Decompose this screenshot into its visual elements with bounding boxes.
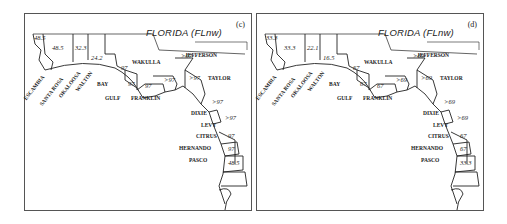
label-jefferson: JEFFERSON: [417, 52, 449, 58]
value-franklin: 97: [145, 82, 152, 89]
value-bay: 97: [121, 64, 128, 71]
label-dixie: DIXIE: [191, 110, 207, 116]
label-taylor: TAYLOR: [440, 75, 463, 81]
label-taylor: TAYLOR: [208, 75, 231, 81]
label-citrus: CITRUS: [196, 133, 217, 139]
label-levy: LEVY: [433, 122, 448, 128]
value-escambia: 33.3: [266, 34, 277, 41]
value-bay: 67: [353, 64, 360, 71]
value-taylor: >97: [189, 74, 200, 81]
label-citrus: CITRUS: [428, 133, 449, 139]
label-pasco: PASCO: [189, 157, 207, 163]
value-wakulla: >69: [396, 76, 407, 83]
map-panel-d: (d) FLORIDA (FLnw) 33.3 33.3 22.1 16.5 6…: [256, 13, 484, 211]
value-pasco: 33.3: [460, 159, 471, 166]
value-dixie: >69: [444, 98, 455, 105]
label-pasco: PASCO: [421, 157, 439, 163]
label-levy: LEVY: [201, 122, 216, 128]
value-escambia: 48.5: [34, 34, 45, 41]
label-bay: BAY: [97, 81, 108, 87]
label-hernando: HERNANDO: [411, 145, 443, 151]
label-gulf: GULF: [105, 95, 120, 101]
value-gulf: 97: [128, 80, 135, 87]
value-citrus: 97: [228, 132, 235, 139]
value-wakulla: >97: [164, 76, 175, 83]
label-wakulla: WAKULLA: [364, 59, 392, 65]
value-taylor: >69: [421, 74, 432, 81]
value-santa-rosa: 48.5: [52, 44, 63, 51]
label-bay: BAY: [329, 81, 340, 87]
value-levy: >97: [225, 114, 236, 121]
value-pasco: 48.5: [228, 159, 239, 166]
panel-tag: (c): [236, 20, 245, 29]
map-panel-c: (c) FLORIDA (FLnw) 48.5 48.5 32.3 24.2 9…: [24, 13, 252, 211]
map-title: FLORIDA (FLnw): [146, 27, 222, 38]
map-title: FLORIDA (FLnw): [378, 27, 454, 38]
panel-tag: (d): [468, 20, 477, 29]
value-okaloosa: 32.3: [75, 44, 86, 51]
label-hernando: HERNANDO: [179, 145, 211, 151]
label-jefferson: JEFFERSON: [185, 52, 217, 58]
label-franklin: FRANKLIN: [131, 95, 160, 101]
value-hernando: 97: [228, 145, 235, 152]
label-franklin: FRANKLIN: [363, 95, 392, 101]
value-franklin: 67: [377, 82, 384, 89]
value-walton: 24.2: [91, 54, 102, 61]
label-wakulla: WAKULLA: [132, 59, 160, 65]
value-okaloosa: 22.1: [307, 44, 318, 51]
value-walton: 16.5: [323, 54, 334, 61]
value-hernando: 67: [460, 145, 467, 152]
label-gulf: GULF: [337, 95, 352, 101]
value-levy: >69: [457, 114, 468, 121]
value-santa-rosa: 33.3: [284, 44, 295, 51]
label-dixie: DIXIE: [423, 110, 439, 116]
value-gulf: 67: [360, 80, 367, 87]
value-dixie: >97: [212, 98, 223, 105]
value-citrus: 67: [460, 132, 467, 139]
